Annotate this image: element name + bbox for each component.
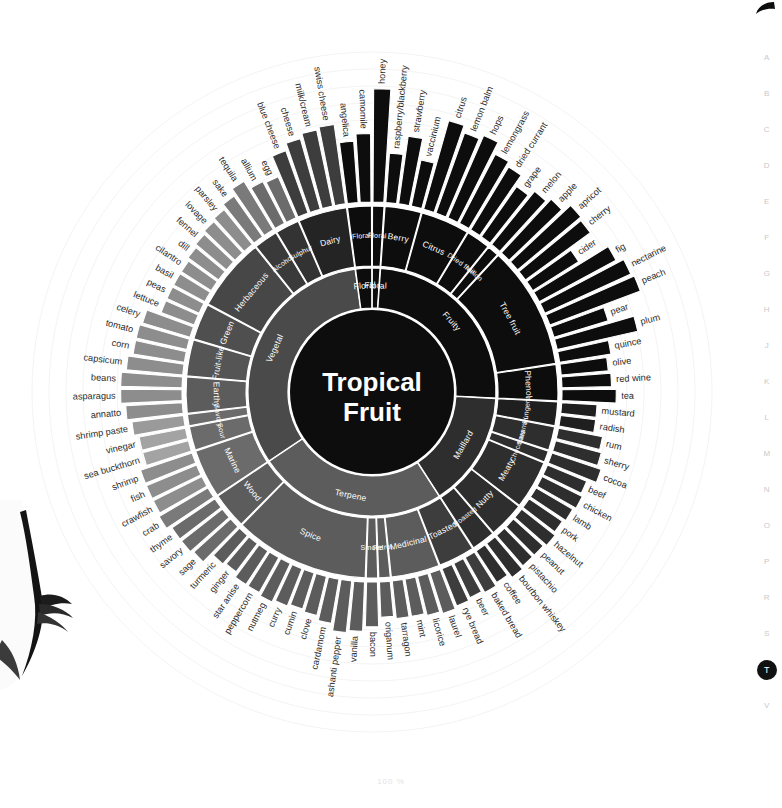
center-hub[interactable]: TropicalFruit (290, 310, 454, 474)
index-letter-j[interactable]: J (757, 328, 777, 364)
index-letter-s[interactable]: S (757, 616, 777, 652)
leaf-label: pork (560, 525, 581, 544)
leaf-label: plum (639, 312, 661, 327)
leaf-label: annatto (90, 408, 121, 421)
index-letter-l[interactable]: L (757, 400, 777, 436)
leaf-segment[interactable] (365, 582, 378, 627)
leaf-label: apple (556, 181, 579, 204)
center-title-line2: Fruit (343, 397, 401, 427)
leaf-label: strawberry (411, 89, 428, 133)
leaf-label: curry (266, 606, 283, 629)
sunburst-chart-stage: TropicalFruit honeyraspberry/blackberrys… (0, 0, 782, 808)
inner-category-label: Floral (353, 280, 376, 291)
index-letter-n[interactable]: N (757, 472, 777, 508)
leaf-label: nectarine (629, 243, 667, 269)
mid-group-label: Smoke (361, 544, 384, 551)
leaf-label: pear (609, 302, 630, 317)
leaf-label: dill (176, 238, 191, 253)
index-letter-t[interactable]: T (757, 660, 777, 680)
leaf-label: tomato (105, 318, 135, 335)
leaf-label: red wine (616, 372, 651, 384)
index-letter-c[interactable]: C (757, 112, 777, 148)
leaf-label: fish (129, 489, 146, 504)
leaf-label: cumin (281, 610, 299, 636)
leaf-label: allium (239, 157, 260, 183)
leaf-label: swiss cheese (312, 66, 331, 122)
leaf-label: peach (640, 267, 667, 286)
leaf-label: raspberry/blackberry (391, 64, 409, 149)
mid-group-label: Phenol (523, 370, 534, 398)
index-letter-o[interactable]: O (757, 508, 777, 544)
leaf-label: corn (111, 338, 130, 351)
leaf-label: rum (605, 439, 623, 452)
leaf-label: vanilla (348, 635, 360, 663)
index-letter-b[interactable]: B (757, 76, 777, 112)
leaf-segment[interactable] (121, 389, 183, 403)
leaf-label: ashanti pepper (325, 636, 343, 698)
index-letter-v[interactable]: V (757, 688, 777, 724)
center-title-line1: Tropical (322, 367, 422, 397)
leaf-label: peas (145, 277, 168, 295)
mid-group-label: Earthy (212, 382, 222, 408)
index-letter-m[interactable]: M (757, 436, 777, 472)
leaf-segment[interactable] (562, 389, 616, 403)
leaf-label: angelica (338, 102, 352, 138)
leaf-label: mint (415, 619, 428, 638)
mid-group-label: Floral (352, 232, 371, 240)
leaf-label: sherry (603, 455, 631, 472)
leaf-label: melon (539, 169, 563, 195)
leaf-segment[interactable] (561, 373, 611, 388)
index-letter-r[interactable]: R (757, 580, 777, 616)
flavour-sunburst-svg[interactable]: TropicalFruit honeyraspberry/blackberrys… (0, 0, 782, 808)
index-letter-d[interactable]: D (757, 148, 777, 184)
leaf-label: radish (599, 421, 625, 435)
leaf-label: olive (612, 356, 632, 368)
leaf-label: lettuce (132, 289, 161, 309)
leaf-label: crab (140, 520, 160, 538)
index-letter-p[interactable]: P (757, 544, 777, 580)
leaf-label: mustard (601, 406, 635, 419)
leaf-label: capsicum (83, 352, 123, 367)
index-letter-g[interactable]: G (757, 256, 777, 292)
leaf-label: clove (298, 617, 313, 640)
leaf-label: camomile (357, 89, 368, 129)
leaf-label: hops (488, 114, 506, 137)
leaf-label: licorice (430, 617, 447, 647)
leaf-segment[interactable] (561, 403, 597, 418)
index-letter-e[interactable]: E (757, 184, 777, 220)
leaf-label: blue cheese (255, 101, 282, 151)
leaf-segment[interactable] (356, 134, 371, 203)
leaf-label: vinegar (105, 439, 137, 455)
leaf-segment[interactable] (379, 581, 393, 617)
leaf-label: origanum (383, 621, 396, 660)
leaf-label: shrimp (110, 473, 139, 492)
leaf-label: milk/cream (293, 82, 313, 128)
leaf-label: tea (621, 391, 635, 401)
leaf-label: cheese (279, 106, 297, 137)
index-letter-h[interactable]: H (757, 292, 777, 328)
logo-mark-icon (754, 0, 776, 26)
leaf-label: basil (154, 263, 175, 281)
leaf-label: grape (521, 165, 543, 190)
leaf-label: bacon (368, 632, 378, 657)
leaf-label: apricot (576, 185, 604, 211)
leaf-label: cherry (586, 203, 613, 227)
leaf-label: beans (91, 372, 117, 383)
leaf-label: quince (614, 336, 642, 351)
leaf-label: cocoa (602, 473, 629, 491)
index-letter-f[interactable]: F (757, 220, 777, 256)
leaf-label: cardamom (310, 625, 329, 670)
leaf-label: asparagus (73, 391, 116, 402)
leaf-label: egg (259, 159, 275, 177)
alphabet-index-rail[interactable]: ABCDEFGHJKLMNOPRSTV (752, 0, 782, 808)
index-letter-k[interactable]: K (757, 364, 777, 400)
leaf-label: beef (587, 484, 608, 501)
leaf-label: lamb (571, 513, 593, 532)
leaf-label: sake (210, 177, 230, 199)
leaf-label: honey (377, 58, 388, 84)
leaf-label: citrus (453, 95, 469, 119)
axis-scale-label: 100 % (0, 777, 782, 786)
index-letter-a[interactable]: A (757, 40, 777, 76)
